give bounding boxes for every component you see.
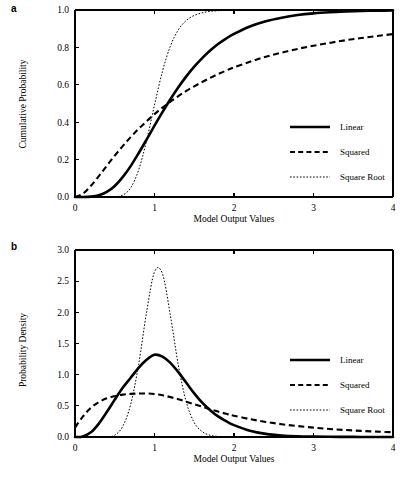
panel-b-x-ticklabel: 1 bbox=[152, 443, 157, 453]
panel-a-x-ticks bbox=[75, 10, 393, 197]
panel-b-legend: Linear Squared Square Root bbox=[290, 355, 385, 415]
panel-a-legend-label-squared: Squared bbox=[340, 147, 370, 157]
panel-b-y-ticklabels: 0.00.51.01.52.02.53.0 bbox=[57, 245, 69, 442]
panel-b-y-ticklabel: 1.0 bbox=[57, 370, 69, 380]
figure-container: a Cumulative Probability 0.00.20.40.60.8… bbox=[0, 0, 405, 477]
panel-a-legend-label-square-root: Square Root bbox=[340, 172, 385, 182]
panel-a-x-ticklabel: 0 bbox=[73, 203, 78, 213]
panel-b-x-ticklabel: 0 bbox=[73, 443, 78, 453]
panel-a-legend: Linear Squared Square Root bbox=[290, 122, 385, 182]
panel-b-x-ticklabel: 2 bbox=[232, 443, 237, 453]
panel-b-x-ticklabel: 3 bbox=[311, 443, 316, 453]
panel-a-x-ticklabel: 4 bbox=[391, 203, 396, 213]
panel-b-y-ticklabel: 0.5 bbox=[57, 401, 69, 411]
panel-a-y-ticks bbox=[75, 10, 79, 197]
panel-b-legend-label-linear: Linear bbox=[340, 355, 363, 365]
panel-a-legend-label-linear: Linear bbox=[340, 122, 363, 132]
panel-b-y-ticklabel: 2.5 bbox=[57, 276, 69, 286]
panel-a-x-ticklabels: 01234 bbox=[73, 203, 396, 213]
panel-b-y-axis-title: Probability Density bbox=[18, 313, 28, 387]
panel-a-x-ticklabel: 1 bbox=[152, 203, 157, 213]
panel-a-curve-linear bbox=[75, 10, 393, 197]
panel-b-curve-linear bbox=[75, 355, 393, 437]
panel-b-x-ticklabels: 01234 bbox=[73, 443, 396, 453]
panel-b-plot: Probability Density 0.00.51.01.52.02.53.… bbox=[0, 238, 405, 477]
panel-b-y-ticklabel: 3.0 bbox=[57, 245, 69, 255]
panel-b-y-ticklabel: 1.5 bbox=[57, 339, 69, 349]
panel-b-y-ticks bbox=[75, 250, 79, 437]
panel-a-y-ticklabel: 0.8 bbox=[57, 43, 69, 53]
panel-b-legend-label-square-root: Square Root bbox=[340, 405, 385, 415]
panel-b: b Probability Density 0.00.51.01.52.02.5… bbox=[0, 238, 405, 477]
panel-b-y-ticklabel: 0.0 bbox=[57, 432, 69, 442]
panel-a-y-ticklabel: 1.0 bbox=[57, 5, 69, 15]
panel-a: a Cumulative Probability 0.00.20.40.60.8… bbox=[0, 0, 405, 238]
panel-a-y-axis-title: Cumulative Probability bbox=[18, 59, 28, 148]
panel-a-y-ticklabel: 0.6 bbox=[57, 80, 69, 90]
panel-a-x-axis-title: Model Output Values bbox=[193, 214, 274, 224]
panel-a-x-ticklabel: 2 bbox=[232, 203, 237, 213]
panel-a-plot: Cumulative Probability 0.00.20.40.60.81.… bbox=[0, 0, 405, 238]
panel-a-y-ticklabels: 0.00.20.40.60.81.0 bbox=[57, 5, 69, 202]
panel-a-y-ticklabel: 0.4 bbox=[57, 118, 69, 128]
panel-b-y-ticklabel: 2.0 bbox=[57, 308, 69, 318]
panel-b-legend-label-squared: Squared bbox=[340, 380, 370, 390]
panel-a-y-ticklabel: 0.2 bbox=[57, 155, 69, 165]
panel-b-label: b bbox=[11, 241, 17, 252]
panel-a-label: a bbox=[11, 3, 17, 14]
panel-a-y-ticklabel: 0.0 bbox=[57, 192, 69, 202]
panel-a-x-ticklabel: 3 bbox=[311, 203, 316, 213]
panel-b-x-axis-title: Model Output Values bbox=[193, 454, 274, 464]
panel-b-x-ticklabel: 4 bbox=[391, 443, 396, 453]
panel-a-curve-square-root bbox=[75, 10, 393, 197]
